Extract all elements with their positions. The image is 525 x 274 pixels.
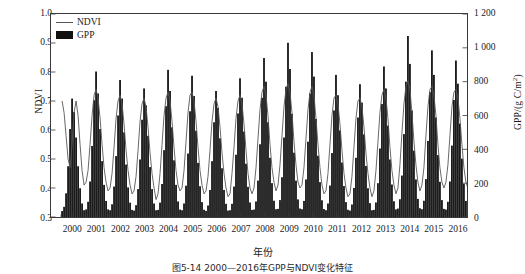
legend-item-gpp: GPP <box>56 29 101 41</box>
chart-canvas <box>51 14 467 217</box>
y-tick-right: 0 <box>474 213 514 223</box>
plot-area <box>50 13 468 218</box>
y-tick-right: 400 <box>474 145 514 155</box>
y-tick-left: 0.8 <box>18 67 52 77</box>
y-tick-right: 600 <box>474 111 514 121</box>
legend-label-gpp: GPP <box>77 29 94 41</box>
y-tick-right: 1 000 <box>474 42 514 52</box>
y-tick-left: 0.9 <box>18 37 52 47</box>
legend-bar-icon <box>56 31 73 39</box>
y-tick-right: 1 200 <box>474 8 514 18</box>
y-tick-left: 0.6 <box>18 125 52 135</box>
y-tick-left: 0.3 <box>18 213 52 223</box>
x-axis-title: 年份 <box>0 244 525 259</box>
y-tick-left: 0.4 <box>18 184 52 194</box>
y-tick-left: 1.0 <box>18 8 52 18</box>
y-tick-right: 200 <box>474 179 514 189</box>
gpp-bars <box>61 36 467 217</box>
legend-line-icon <box>56 22 73 23</box>
y-tick-left: 0.7 <box>18 96 52 106</box>
chart-legend: NDVI GPP <box>56 16 101 42</box>
x-tick: 2016 <box>438 224 478 234</box>
legend-item-ndvi: NDVI <box>56 16 101 28</box>
y-tick-right: 800 <box>474 76 514 86</box>
legend-label-ndvi: NDVI <box>77 16 101 28</box>
y-tick-left: 0.5 <box>18 154 52 164</box>
figure-caption: 图5-14 2000—2016年GPP与NDVI变化特征 <box>0 261 525 274</box>
